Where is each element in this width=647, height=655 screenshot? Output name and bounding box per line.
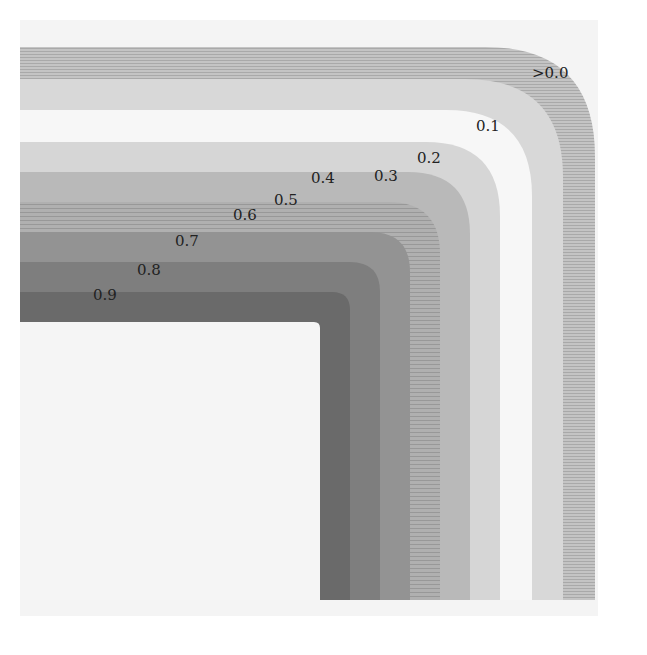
contour-label: 0.2 [417,151,441,166]
contour-label: 0.5 [274,193,298,208]
contour-label: >0.0 [532,66,568,81]
contour-label: 0.3 [374,169,398,184]
contour-label: 0.9 [93,288,117,303]
contour-label: 0.8 [137,263,161,278]
inner-region [20,322,320,600]
contour-label: 0.7 [175,234,199,249]
contour-diagram [0,0,647,655]
contour-label: 0.6 [233,208,257,223]
contour-label: 0.1 [476,119,500,134]
contour-label: 0.4 [311,171,335,186]
contour-bands [20,47,595,600]
